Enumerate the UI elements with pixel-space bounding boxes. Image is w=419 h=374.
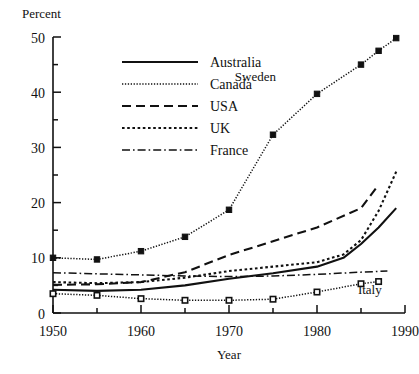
legend-item-uk: UK xyxy=(122,121,230,136)
legend-label: Canada xyxy=(210,77,253,92)
series-usa xyxy=(53,185,379,285)
data-point-marker xyxy=(314,289,319,294)
series-uk xyxy=(53,172,396,284)
data-point-marker xyxy=(50,255,55,260)
legend-item-canada: Canada xyxy=(122,77,253,92)
series-group xyxy=(50,35,399,303)
data-point-marker xyxy=(138,248,143,253)
data-point-marker xyxy=(182,298,187,303)
legend-item-australia: Australia xyxy=(122,55,262,70)
y-tick-label: 50 xyxy=(31,31,45,46)
legend-item-france: France xyxy=(122,143,248,158)
data-point-marker xyxy=(314,91,319,96)
x-tick-label: 1980 xyxy=(303,324,331,339)
x-tick-label: 1950 xyxy=(39,324,67,339)
data-point-marker xyxy=(50,291,55,296)
data-point-marker xyxy=(394,35,399,40)
y-tick-label: 30 xyxy=(31,141,45,156)
data-point-marker xyxy=(358,62,363,67)
legend-label: UK xyxy=(210,121,230,136)
series-australia xyxy=(53,208,396,291)
data-point-marker xyxy=(94,293,99,298)
x-tick-label: 1990 xyxy=(391,324,419,339)
legend-label: USA xyxy=(210,99,239,114)
y-tick-label: 40 xyxy=(31,86,45,101)
data-point-marker xyxy=(226,298,231,303)
data-point-marker xyxy=(270,297,275,302)
x-axis-title: Year xyxy=(217,347,242,362)
axis-labels-group: PercentYear xyxy=(22,6,242,362)
data-point-marker xyxy=(226,207,231,212)
legend-label: France xyxy=(210,143,248,158)
series-line xyxy=(53,185,379,285)
data-point-marker xyxy=(182,234,187,239)
data-point-marker xyxy=(138,296,143,301)
y-tick-label: 20 xyxy=(31,196,45,211)
chart-canvas: 0102030405019501960197019801990 SwedenIt… xyxy=(0,0,419,374)
legend-label: Australia xyxy=(210,55,262,70)
series-line xyxy=(53,172,396,284)
annotation-italy: Italy xyxy=(358,282,382,297)
x-tick-label: 1960 xyxy=(127,324,155,339)
legend-item-usa: USA xyxy=(122,99,239,114)
y-tick-label: 10 xyxy=(31,251,45,266)
data-point-marker xyxy=(376,48,381,53)
series-line xyxy=(53,208,396,291)
x-tick-label: 1970 xyxy=(215,324,243,339)
data-point-marker xyxy=(270,132,275,137)
data-point-marker xyxy=(94,257,99,262)
y-axis-title: Percent xyxy=(22,6,61,21)
line-chart: 0102030405019501960197019801990 SwedenIt… xyxy=(0,0,419,374)
y-tick-label: 0 xyxy=(38,307,45,322)
